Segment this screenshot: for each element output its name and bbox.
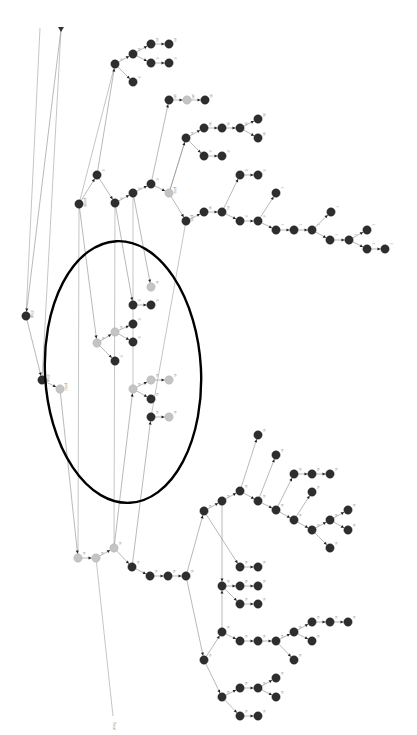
tree-node[interactable] xyxy=(236,171,244,179)
tree-node[interactable] xyxy=(218,497,226,505)
tree-node[interactable] xyxy=(129,78,137,86)
tree-node[interactable] xyxy=(326,516,334,524)
tree-node[interactable] xyxy=(56,385,64,393)
tree-node[interactable] xyxy=(165,413,173,421)
tree-node[interactable] xyxy=(129,320,137,328)
tree-node[interactable] xyxy=(327,208,335,216)
tree-node[interactable] xyxy=(111,199,119,207)
tree-node[interactable] xyxy=(218,124,226,132)
tree-node[interactable] xyxy=(200,208,208,216)
tree-node[interactable] xyxy=(290,470,298,478)
tree-node[interactable] xyxy=(164,572,172,580)
tree-node[interactable] xyxy=(236,637,244,645)
tree-node[interactable] xyxy=(93,171,101,179)
tree-node[interactable] xyxy=(254,115,262,123)
tree-node[interactable] xyxy=(129,385,137,393)
tree-node[interactable] xyxy=(236,487,244,495)
tree-node[interactable] xyxy=(75,200,83,208)
tree-node[interactable] xyxy=(290,226,298,234)
tree-node[interactable] xyxy=(272,674,280,682)
tree-node[interactable] xyxy=(201,96,209,104)
tree-node[interactable] xyxy=(254,217,262,225)
tree-node[interactable] xyxy=(165,96,173,104)
tree-node[interactable] xyxy=(254,563,262,571)
tree-node[interactable] xyxy=(326,618,334,626)
tree-node[interactable] xyxy=(308,618,316,626)
tree-node[interactable] xyxy=(74,554,82,562)
tree-node[interactable] xyxy=(254,712,262,720)
tree-node[interactable] xyxy=(236,217,244,225)
tree-node[interactable] xyxy=(236,600,244,608)
tree-node[interactable] xyxy=(236,563,244,571)
tree-node[interactable] xyxy=(200,507,208,515)
tree-node[interactable] xyxy=(218,152,226,160)
tree-node[interactable] xyxy=(345,236,353,244)
tree-node[interactable] xyxy=(254,684,262,692)
tree-node[interactable] xyxy=(254,600,262,608)
tree-node[interactable] xyxy=(272,637,280,645)
tree-node[interactable] xyxy=(111,357,119,365)
tree-node[interactable] xyxy=(236,582,244,590)
tree-node[interactable] xyxy=(147,40,155,48)
tree-node[interactable] xyxy=(218,582,226,590)
tree-node[interactable] xyxy=(92,554,100,562)
tree-node[interactable] xyxy=(200,656,208,664)
tree-node[interactable] xyxy=(129,301,137,309)
tree-node[interactable] xyxy=(22,312,30,320)
tree-node[interactable] xyxy=(308,637,316,645)
tree-node[interactable] xyxy=(183,96,191,104)
tree-node[interactable] xyxy=(326,544,334,552)
tree-node[interactable] xyxy=(218,628,226,636)
tree-node[interactable] xyxy=(165,59,173,67)
tree-node[interactable] xyxy=(129,50,137,58)
tree-node[interactable] xyxy=(165,40,173,48)
tree-node[interactable] xyxy=(272,226,280,234)
tree-node[interactable] xyxy=(381,245,389,253)
tree-node[interactable] xyxy=(254,431,262,439)
tree-node[interactable] xyxy=(254,637,262,645)
tree-node[interactable] xyxy=(147,413,155,421)
tree-node[interactable] xyxy=(272,189,280,197)
tree-node[interactable] xyxy=(326,470,334,478)
tree-node[interactable] xyxy=(254,582,262,590)
tree-node[interactable] xyxy=(254,497,262,505)
tree-node[interactable] xyxy=(147,180,155,188)
tree-node[interactable] xyxy=(111,328,119,336)
tree-node[interactable] xyxy=(93,339,101,347)
tree-node[interactable] xyxy=(182,217,190,225)
tree-node[interactable] xyxy=(236,124,244,132)
tree-node[interactable] xyxy=(218,693,226,701)
tree-node[interactable] xyxy=(272,451,280,459)
tree-node[interactable] xyxy=(147,376,155,384)
tree-node[interactable] xyxy=(236,712,244,720)
tree-node[interactable] xyxy=(308,226,316,234)
tree-node[interactable] xyxy=(254,134,262,142)
tree-node[interactable] xyxy=(344,618,352,626)
tree-node[interactable] xyxy=(218,208,226,216)
tree-node[interactable] xyxy=(308,470,316,478)
tree-node[interactable] xyxy=(254,171,262,179)
tree-node[interactable] xyxy=(290,628,298,636)
tree-node[interactable] xyxy=(308,488,316,496)
tree-node[interactable] xyxy=(200,124,208,132)
tree-node[interactable] xyxy=(147,59,155,67)
tree-node[interactable] xyxy=(290,516,298,524)
tree-node[interactable] xyxy=(165,376,173,384)
tree-node[interactable] xyxy=(129,338,137,346)
tree-node[interactable] xyxy=(111,60,119,68)
tree-node[interactable] xyxy=(363,226,371,234)
tree-node[interactable] xyxy=(326,236,334,244)
tree-node[interactable] xyxy=(128,563,136,571)
tree-node[interactable] xyxy=(308,526,316,534)
tree-node[interactable] xyxy=(129,189,137,197)
tree-node[interactable] xyxy=(236,684,244,692)
tree-node[interactable] xyxy=(272,506,280,514)
tree-node[interactable] xyxy=(182,572,190,580)
tree-node[interactable] xyxy=(344,526,352,534)
tree-node[interactable] xyxy=(182,134,190,142)
tree-node[interactable] xyxy=(110,544,118,552)
tree-node[interactable] xyxy=(147,301,155,309)
tree-node[interactable] xyxy=(200,152,208,160)
tree-node[interactable] xyxy=(290,656,298,664)
tree-node[interactable] xyxy=(147,283,155,291)
